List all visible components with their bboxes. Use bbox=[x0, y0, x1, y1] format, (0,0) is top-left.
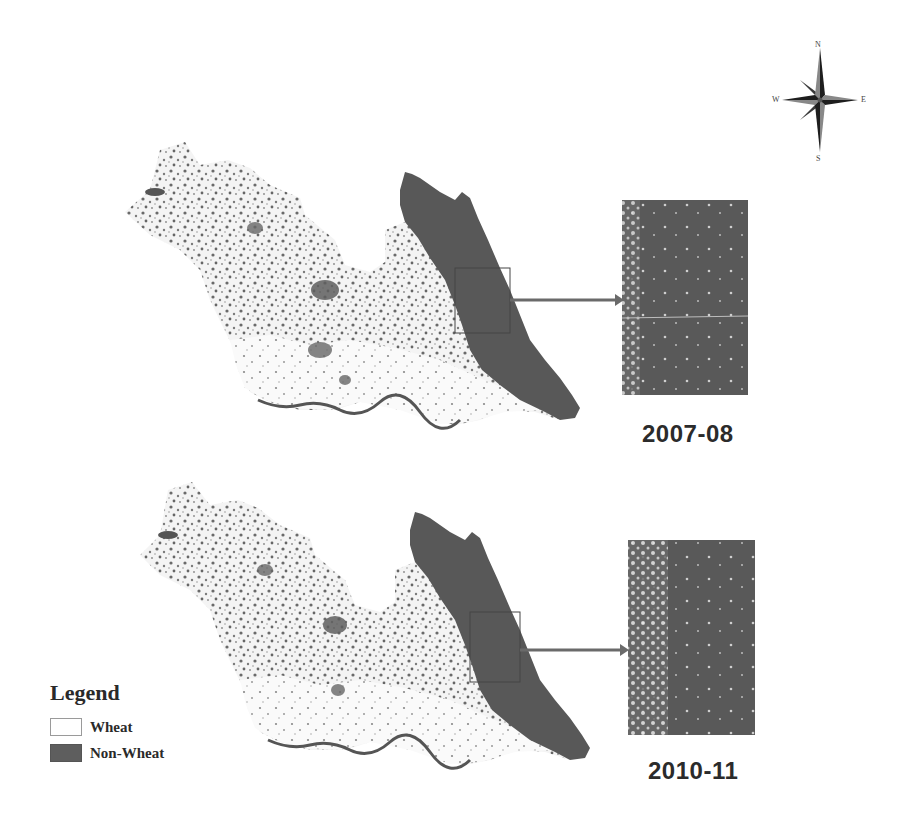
compass-east-label: E bbox=[861, 95, 866, 104]
north-arrow-compass-rose-icon bbox=[782, 48, 858, 152]
legend-title: Legend bbox=[50, 680, 164, 706]
inset-2007-08 bbox=[622, 200, 748, 395]
map-panel-2010-11 bbox=[140, 482, 755, 768]
legend-label-wheat: Wheat bbox=[90, 719, 133, 736]
compass-north-label: N bbox=[815, 40, 821, 49]
compass-west-label: W bbox=[772, 95, 780, 104]
legend-swatch-wheat bbox=[50, 718, 82, 736]
year-label-2007-08: 2007-08 bbox=[642, 420, 734, 448]
year-label-2010-11: 2010-11 bbox=[648, 757, 738, 785]
compass-south-label: S bbox=[816, 154, 820, 163]
legend-label-non-wheat: Non-Wheat bbox=[90, 745, 164, 762]
legend-swatch-non-wheat bbox=[50, 744, 82, 762]
legend-item-wheat: Wheat bbox=[50, 714, 164, 740]
legend-item-non-wheat: Non-Wheat bbox=[50, 740, 164, 766]
inset-2010-11 bbox=[628, 540, 755, 735]
legend: Legend Wheat Non-Wheat bbox=[50, 680, 164, 766]
map-panel-2007-08 bbox=[125, 142, 748, 428]
